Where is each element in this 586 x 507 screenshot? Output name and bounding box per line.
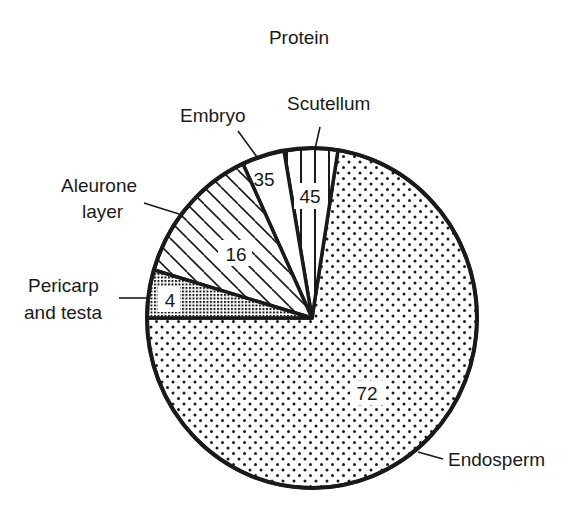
label-aleurone-line2: layer xyxy=(82,201,124,222)
leader-aleurone xyxy=(144,203,179,214)
value-scutellum: 45 xyxy=(299,186,320,207)
leader-scutellum xyxy=(315,127,320,149)
leader-embryo xyxy=(238,131,257,157)
value-pericarp: 4 xyxy=(165,290,176,311)
chart-title: Protein xyxy=(269,27,329,48)
label-pericarp-line1: Pericarp xyxy=(28,275,99,296)
label-endosperm: Endosperm xyxy=(448,449,545,470)
label-scutellum: Scutellum xyxy=(287,93,370,114)
label-aleurone-line1: Aleurone xyxy=(61,175,137,196)
label-pericarp-line2: and testa xyxy=(24,302,103,323)
value-embryo: 35 xyxy=(253,169,274,190)
label-embryo: Embryo xyxy=(180,105,245,126)
value-aleurone: 16 xyxy=(225,244,246,265)
leader-endosperm xyxy=(418,452,443,459)
pie-chart: Protein 72 45 35 16 4 Scutellum Embryo A… xyxy=(0,0,586,507)
value-endosperm: 72 xyxy=(356,383,377,404)
